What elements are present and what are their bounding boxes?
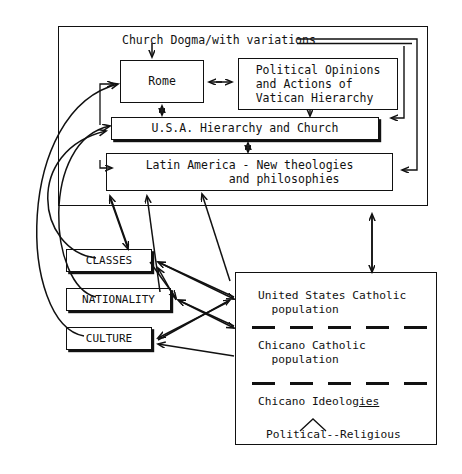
box-political-opinions[interactable]: Political Opinions and Actions of Vatica…: [238, 58, 398, 110]
chicano-ideologies-prefix: Chicano Ideolog: [258, 395, 359, 408]
population-united-states-label: United States Catholic population: [258, 289, 406, 317]
box-rome-label: Rome: [148, 74, 176, 88]
box-usa-hierarchy[interactable]: U.S.A. Hierarchy and Church: [111, 117, 379, 140]
box-latin-america-label: Latin America - New theologies and philo…: [146, 158, 354, 186]
chicano-ideologies-label: Chicano Ideologies: [258, 395, 379, 409]
chicano-ideologies-suffix: ies: [359, 395, 379, 408]
box-culture-label: CULTURE: [86, 332, 132, 345]
political-religious-label: Political--Religious: [266, 428, 401, 442]
population-chicano-label: Chicano Catholic population: [258, 339, 366, 367]
box-latin-america[interactable]: Latin America - New theologies and philo…: [106, 153, 393, 191]
box-catholic-population[interactable]: United States Catholic population Chican…: [235, 272, 437, 445]
box-political-opinions-label: Political Opinions and Actions of Vatica…: [256, 63, 381, 105]
box-usa-hierarchy-label: U.S.A. Hierarchy and Church: [152, 121, 339, 135]
separator-dashes-top: [252, 326, 427, 329]
organizational-flow-diagram: Church Dogma/with variations Rome Politi…: [0, 0, 462, 474]
box-nationality-label: NATIONALITY: [82, 293, 155, 306]
box-classes[interactable]: CLASSES: [66, 249, 152, 272]
church-dogma-label: Church Dogma/with variations: [122, 33, 316, 47]
box-nationality[interactable]: NATIONALITY: [66, 288, 171, 311]
box-culture[interactable]: CULTURE: [66, 327, 152, 350]
box-classes-label: CLASSES: [86, 254, 132, 267]
box-rome[interactable]: Rome: [120, 60, 204, 103]
separator-dashes-bottom: [252, 382, 427, 385]
